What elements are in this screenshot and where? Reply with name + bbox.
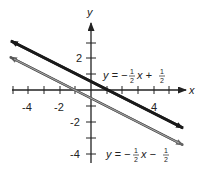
y-axis-label: y	[86, 6, 94, 18]
svg-text:2: 2	[134, 156, 138, 163]
x-axis-label: x	[188, 84, 195, 96]
svg-text:1: 1	[134, 147, 138, 154]
y-tick-label-neg2: -2	[70, 116, 80, 128]
x-tick-label-neg2: -2	[54, 101, 64, 113]
svg-text:1: 1	[160, 68, 164, 75]
svg-text:x −: x −	[140, 148, 157, 160]
svg-text:2: 2	[130, 77, 134, 84]
x-tick-label-neg4: -4	[22, 101, 32, 113]
svg-text:1: 1	[130, 68, 134, 75]
equation-label-lower: y = − 1 2 x − 1 2	[104, 145, 174, 163]
svg-text:x +: x +	[136, 69, 153, 81]
svg-text:2: 2	[160, 77, 164, 84]
svg-text:1: 1	[164, 147, 168, 154]
line-upper	[11, 41, 183, 128]
y-axis: y 2 -2 -4	[70, 6, 96, 163]
line-graph: x -4 -2 4 y 2 -2 -4 y = −	[0, 0, 202, 170]
y-tick-label-2: 2	[76, 52, 82, 64]
equation-label-upper: y = − 1 2 x + 1 2	[101, 66, 171, 84]
svg-text:2: 2	[164, 156, 168, 163]
svg-text:y = −: y = −	[102, 69, 128, 81]
svg-text:y = −: y = −	[105, 148, 131, 160]
y-tick-label-neg4: -4	[70, 148, 80, 160]
